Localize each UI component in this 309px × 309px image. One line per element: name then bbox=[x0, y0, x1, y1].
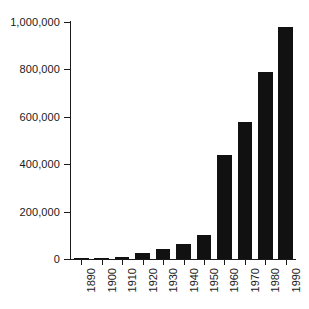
y-axis-tick bbox=[64, 22, 71, 23]
x-axis-tick bbox=[204, 260, 205, 265]
x-axis-tick bbox=[163, 260, 164, 265]
bar bbox=[115, 257, 130, 259]
y-axis-tick bbox=[64, 259, 71, 260]
bar bbox=[197, 235, 212, 259]
y-axis-tick bbox=[64, 164, 71, 165]
x-axis-tick-label: 1910 bbox=[127, 268, 138, 292]
x-axis-tick bbox=[122, 260, 123, 265]
bar-chart-figure: 0200,000400,000600,000800,0001,000,000 1… bbox=[0, 0, 309, 309]
y-axis-tick bbox=[64, 117, 71, 118]
y-axis-tick-label: 0 bbox=[54, 254, 60, 265]
y-axis-tick-label: 200,000 bbox=[20, 206, 60, 217]
bar bbox=[135, 253, 150, 259]
x-axis-tick-label: 1950 bbox=[209, 268, 220, 292]
y-axis-tick-label: 1,000,000 bbox=[10, 17, 60, 28]
bar bbox=[258, 72, 273, 259]
x-axis-tick-label: 1960 bbox=[229, 268, 240, 292]
x-axis-tick bbox=[102, 260, 103, 265]
x-axis-tick bbox=[286, 260, 287, 265]
bar bbox=[74, 258, 89, 259]
y-axis-tick-label: 600,000 bbox=[20, 111, 60, 122]
bar bbox=[238, 122, 253, 259]
x-axis-tick-label: 1940 bbox=[189, 268, 200, 292]
x-axis-tick-label: 1980 bbox=[270, 268, 281, 292]
x-axis-tick-label: 1990 bbox=[291, 268, 302, 292]
y-axis-tick bbox=[64, 212, 71, 213]
x-axis-tick-label: 1900 bbox=[107, 268, 118, 292]
bar bbox=[94, 258, 109, 259]
x-axis-tick bbox=[265, 260, 266, 265]
x-axis-tick bbox=[143, 260, 144, 265]
x-axis-tick bbox=[184, 260, 185, 265]
bar bbox=[176, 244, 191, 259]
x-axis-tick-label: 1890 bbox=[86, 268, 97, 292]
x-axis-tick-label: 1930 bbox=[168, 268, 179, 292]
bar bbox=[156, 249, 171, 259]
y-axis-tick-label: 400,000 bbox=[20, 159, 60, 170]
bar bbox=[217, 155, 232, 259]
y-axis-tick-label: 800,000 bbox=[20, 64, 60, 75]
x-axis-tick-label: 1920 bbox=[148, 268, 159, 292]
x-axis-tick-label: 1970 bbox=[250, 268, 261, 292]
x-axis-tick bbox=[224, 260, 225, 265]
bar bbox=[278, 27, 293, 259]
x-axis-tick bbox=[81, 260, 82, 265]
y-axis-tick bbox=[64, 69, 71, 70]
x-axis-tick bbox=[245, 260, 246, 265]
plot-area bbox=[71, 22, 296, 259]
